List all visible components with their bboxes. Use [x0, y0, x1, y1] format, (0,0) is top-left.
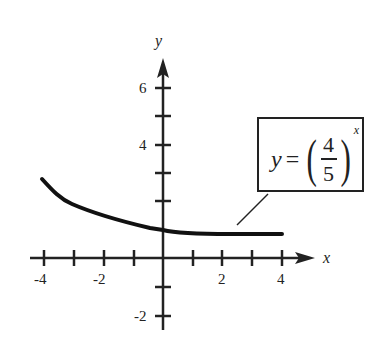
numerator: 4: [323, 133, 334, 156]
x-tick-label: 4: [277, 272, 285, 287]
leader-line: [237, 194, 268, 225]
y-axis-label: y: [155, 32, 162, 50]
denominator: 5: [323, 162, 334, 185]
equation-box: y = ( 4 5 ) x: [257, 117, 364, 192]
equation-y: y: [271, 146, 282, 173]
x-axis-label: x: [323, 249, 330, 267]
x-tick-label: -4: [34, 272, 47, 287]
right-paren: ): [340, 133, 350, 185]
fraction: 4 5: [321, 133, 337, 185]
y-tick-label: 4: [139, 138, 147, 153]
left-paren: (: [307, 133, 317, 185]
equation-equals: =: [286, 146, 300, 173]
x-tick-label: -2: [93, 272, 106, 287]
x-tick-label: 2: [218, 272, 226, 287]
fraction-bar: [321, 158, 337, 160]
y-tick-label: 6: [139, 81, 147, 96]
equation: y = ( 4 5 ) x: [271, 133, 359, 185]
y-tick-label: -2: [134, 309, 147, 324]
exponent: x: [354, 123, 359, 138]
